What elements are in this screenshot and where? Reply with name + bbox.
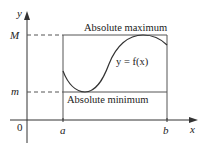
y-axis bbox=[24, 11, 30, 143]
y-axis-label: y bbox=[16, 7, 22, 19]
interval-left-label: a bbox=[60, 124, 66, 136]
y-axis-arrow-icon bbox=[24, 11, 30, 20]
max-value-label: M bbox=[9, 29, 20, 41]
absolute-minimum-label: Absolute minimum bbox=[67, 94, 148, 105]
x-axis bbox=[10, 117, 198, 123]
x-axis-label: x bbox=[189, 123, 195, 135]
curve-label: y = f(x) bbox=[116, 56, 149, 68]
diagram-canvas: y M m 0 a b x Absolute maximum Absolute … bbox=[0, 0, 204, 146]
interval-right-label: b bbox=[163, 124, 169, 136]
absolute-maximum-label: Absolute maximum bbox=[84, 22, 167, 33]
min-value-label: m bbox=[11, 85, 19, 97]
function-curve bbox=[63, 35, 167, 92]
extreme-value-figure: y M m 0 a b x Absolute maximum Absolute … bbox=[0, 0, 204, 146]
origin-label: 0 bbox=[17, 121, 23, 133]
